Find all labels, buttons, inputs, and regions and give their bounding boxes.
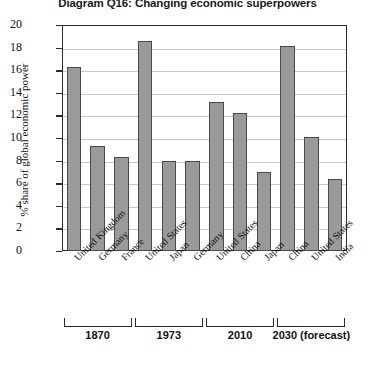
- group-bracket: [135, 318, 203, 327]
- group-bracket: [64, 318, 132, 327]
- group-bracket: [277, 318, 345, 327]
- chart-container: Diagram Q16: Changing economic superpowe…: [0, 0, 375, 365]
- group-bracket: [206, 318, 274, 327]
- x-axis-label: India: [333, 240, 355, 262]
- group-label: 2030 (forecast): [257, 329, 365, 341]
- x-axis-labels: United KingdomGermanyFranceUnited States…: [0, 0, 375, 365]
- x-axis-label: China: [286, 238, 311, 263]
- x-axis-label: Japan: [262, 239, 286, 263]
